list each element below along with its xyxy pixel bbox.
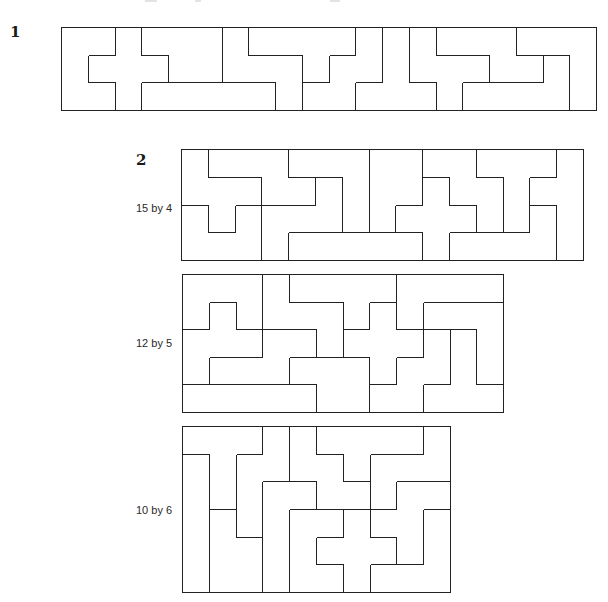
pentomino-tiling-15-by-4 [181, 149, 584, 261]
cropped-text-fragment [195, 0, 201, 2]
cropped-text-fragment [330, 0, 340, 2]
cropped-text-fragment [145, 0, 157, 2]
pentomino-tiling-20-by-3 [61, 27, 597, 111]
figure-2-number: 2 [136, 153, 146, 168]
pentomino-tiling-10-by-6 [182, 426, 451, 593]
size-label-15-by-4: 15 by 4 [136, 203, 172, 214]
figure-1-number: 1 [10, 25, 20, 40]
size-label-10-by-6: 10 by 6 [136, 505, 172, 516]
size-label-12-by-5: 12 by 5 [136, 338, 172, 349]
pentomino-tiling-12-by-5 [182, 274, 504, 413]
